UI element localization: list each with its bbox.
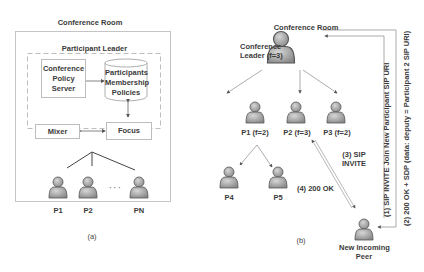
participant-leader-title: Participant Leader [52,44,137,53]
new-peer-label-1: New Incoming [339,243,389,252]
focus-box: Focus [106,122,152,140]
conference-room-title-b: Conference Room [266,23,346,32]
participant-pn-label: PN [129,206,149,215]
msg3-line2: INVITE [334,159,374,168]
conference-room-frame [16,32,171,202]
new-peer-label-2: Peer [339,252,389,261]
ellipsis: · · · [100,183,130,192]
msg4-label: (4) 200 OK [293,184,338,193]
participant-p1-label: P1 [48,206,68,215]
person-icon [49,177,67,198]
membership-policies-label: Participants Membership Policies [105,68,147,98]
participant-p5-label: P5 [268,193,288,202]
conference-policy-server-box: Conference Policy Server [41,59,86,98]
participant-p4-label: P4 [219,193,239,202]
caption-a: (a) [82,232,102,241]
conference-leader-label-1: Conference [240,42,280,51]
msg3-line1: (3) SIP [334,150,374,159]
msg1-label: (1) SIP INVITE Join New Participant SIP … [382,63,391,217]
conference-room-title-a: Conference Room [30,18,150,27]
caption-b: (b) [291,236,311,245]
conference-leader-label-2: Leader (f=3) [240,51,280,60]
participant-p3-label-b: P3 (f=2) [322,128,352,137]
participant-p1-label-b: P1 (f=2) [240,128,270,137]
mixer-box: Mixer [35,124,80,139]
participant-p2-label-b: P2 (f=3) [282,128,312,137]
participant-p2-label: P2 [78,206,98,215]
msg2-label: (2) 200 OK + SDP (data: deputy = Partici… [402,31,411,226]
